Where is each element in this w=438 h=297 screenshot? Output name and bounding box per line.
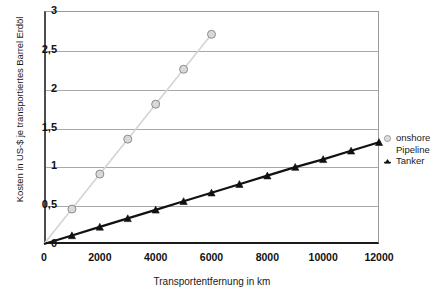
legend-item-tanker[interactable]: Tanker — [383, 155, 438, 167]
data-point-circle — [180, 65, 188, 73]
series-onshore-pipeline — [44, 30, 216, 244]
legend-label-onshore: onshore — [396, 132, 438, 144]
data-point-circle — [124, 135, 132, 143]
legend-label-pipeline: Pipeline — [396, 144, 438, 156]
data-point-circle — [68, 205, 76, 213]
chart-container: Kosten in US-$ je transportiertes Barrel… — [0, 0, 438, 297]
series-tanker — [44, 139, 383, 244]
chart-legend: onshore Pipeline Tanker — [383, 132, 438, 167]
legend-item-onshore-pipeline[interactable]: onshore Pipeline — [383, 132, 438, 155]
triangle-marker-icon — [383, 157, 392, 166]
circle-marker-icon — [383, 134, 392, 143]
x-axis-label: Transportentfernung in km — [44, 276, 380, 287]
data-point-circle — [96, 170, 104, 178]
legend-label-tanker: Tanker — [396, 155, 438, 167]
series-layer — [0, 0, 438, 297]
data-point-circle — [152, 100, 160, 108]
data-point-circle — [208, 30, 216, 38]
